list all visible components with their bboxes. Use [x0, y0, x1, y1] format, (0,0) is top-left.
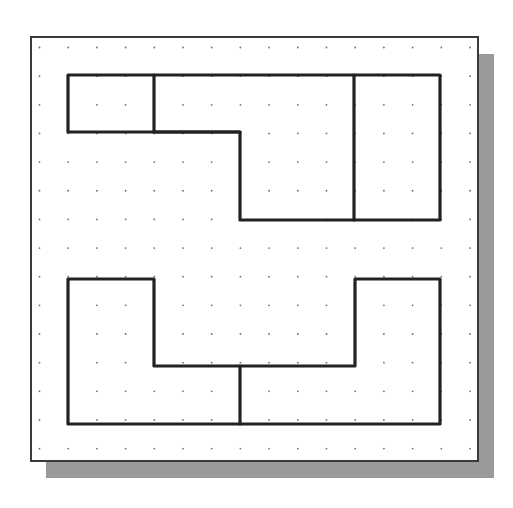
grid-dot: [326, 448, 328, 450]
grid-dot: [412, 448, 414, 450]
grid-dot: [412, 304, 414, 306]
grid-dot: [182, 104, 184, 106]
grid-dot: [39, 247, 41, 249]
grid-dot: [412, 190, 414, 192]
grid-dot: [268, 104, 270, 106]
grid-dot: [39, 333, 41, 335]
grid-dot: [96, 190, 98, 192]
grid-dot: [412, 333, 414, 335]
grid-dot: [96, 219, 98, 221]
grid-dot: [39, 133, 41, 135]
grid-dot: [153, 390, 155, 392]
grid-dot: [67, 161, 69, 163]
grid-dot: [326, 161, 328, 163]
grid-dot: [412, 247, 414, 249]
grid-dot: [469, 390, 471, 392]
grid-dot: [412, 47, 414, 49]
grid-dot: [268, 362, 270, 364]
grid-dot: [39, 448, 41, 450]
grid-dot: [153, 190, 155, 192]
grid-dot: [297, 333, 299, 335]
grid-dot: [211, 304, 213, 306]
grid-dot: [125, 190, 127, 192]
grid-dot: [182, 276, 184, 278]
grid-dot: [297, 47, 299, 49]
grid-dot: [469, 219, 471, 221]
grid-dot: [326, 133, 328, 135]
grid-dot: [125, 219, 127, 221]
grid-dot: [440, 448, 442, 450]
grid-dot: [125, 419, 127, 421]
grid-dot: [182, 448, 184, 450]
grid-dot: [39, 75, 41, 77]
grid-dot: [211, 219, 213, 221]
grid-dot: [182, 304, 184, 306]
grid-dot: [326, 190, 328, 192]
grid-dot: [469, 419, 471, 421]
grid-dot: [211, 448, 213, 450]
grid-dot: [383, 390, 385, 392]
grid-dot: [182, 419, 184, 421]
grid-dot: [469, 104, 471, 106]
grid-dot: [39, 161, 41, 163]
grid-dot: [182, 47, 184, 49]
grid-dot: [67, 219, 69, 221]
grid-dot: [39, 104, 41, 106]
grid-dot: [153, 448, 155, 450]
grid-dot: [297, 190, 299, 192]
grid-dot: [96, 419, 98, 421]
grid-dot: [268, 161, 270, 163]
grid-dot: [326, 390, 328, 392]
grid-dot: [240, 304, 242, 306]
grid-dot: [96, 362, 98, 364]
grid-dot: [383, 276, 385, 278]
grid-dot: [153, 161, 155, 163]
grid-dot: [182, 161, 184, 163]
grid-dot: [211, 276, 213, 278]
grid-dot: [383, 133, 385, 135]
grid-dot: [67, 448, 69, 450]
grid-dot: [469, 75, 471, 77]
grid-dot: [39, 419, 41, 421]
grid-dot: [211, 390, 213, 392]
grid-dot: [440, 276, 442, 278]
grid-dot: [125, 362, 127, 364]
grid-dot: [297, 448, 299, 450]
grid-dot: [383, 304, 385, 306]
grid-dot: [96, 47, 98, 49]
grid-dot: [268, 448, 270, 450]
grid-dot: [96, 333, 98, 335]
grid-dot: [412, 276, 414, 278]
grid-dot: [96, 276, 98, 278]
grid-dot: [182, 219, 184, 221]
grid-dot: [67, 190, 69, 192]
grid-dot: [297, 133, 299, 135]
grid-dot: [211, 190, 213, 192]
grid-dot: [326, 333, 328, 335]
grid-dot: [297, 276, 299, 278]
grid-dot: [125, 390, 127, 392]
grid-dot: [125, 276, 127, 278]
grid-dot: [412, 362, 414, 364]
grid-dot: [297, 161, 299, 163]
grid-dot: [39, 362, 41, 364]
grid-dot: [240, 276, 242, 278]
grid-dot: [297, 390, 299, 392]
grid-dot: [67, 276, 69, 278]
grid-dot: [469, 190, 471, 192]
grid-dot: [240, 47, 242, 49]
grid-dot: [268, 276, 270, 278]
grid-dot: [469, 47, 471, 49]
grid-dot: [469, 161, 471, 163]
grid-dot: [153, 47, 155, 49]
grid-dot: [240, 104, 242, 106]
orthographic-drawing-canvas: [0, 0, 513, 508]
grid-dot: [383, 362, 385, 364]
grid-dot: [412, 104, 414, 106]
grid-dot: [354, 390, 356, 392]
grid-dot: [268, 190, 270, 192]
grid-dot: [297, 304, 299, 306]
grid-dot: [383, 333, 385, 335]
grid-dot: [268, 247, 270, 249]
grid-dot: [39, 390, 41, 392]
